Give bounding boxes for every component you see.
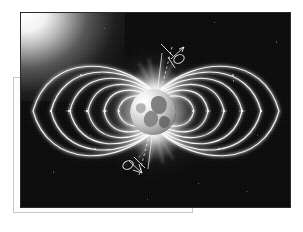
earth-globe (130, 89, 176, 135)
north-axis-arrow-annotation (161, 44, 186, 68)
illustration-stage (0, 0, 303, 232)
continent-landmass (158, 115, 171, 128)
south-axis-arrow-annotation (121, 157, 145, 173)
photo-plate (21, 13, 290, 207)
